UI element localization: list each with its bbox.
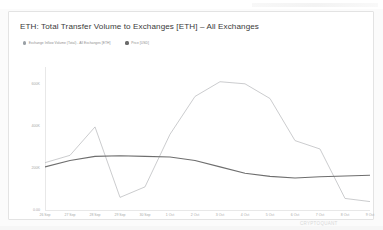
x-axis-tick-label: 4 Oct [241,213,249,217]
y-axis-labels: 600K400K200K0.00 [9,67,43,210]
x-axis-tick-label: 8 Oct [341,213,349,217]
page-bottom-edge [0,226,383,230]
legend-item-label: Exchange Inflow Volume (Total) - All Exc… [29,41,111,45]
x-axis-tick-label: 2 Oct [191,213,199,217]
plot-area [45,67,370,210]
y-axis-tick-label: 0.00 [33,208,40,212]
chart-card: ETH: Total Transfer Volume to Exchanges … [8,11,374,220]
legend-item-price[interactable]: Price [USD] [125,41,148,45]
series-line [45,82,370,202]
y-axis-tick-label: 200K [32,166,40,170]
x-axis-tick-label: 3 Oct [216,213,224,217]
x-axis-tick-label: 27 Sep [64,213,75,217]
x-axis-line [45,210,370,211]
page-title: ETH: Total Transfer Volume to Exchanges … [20,22,259,31]
series-line [45,156,370,178]
y-axis-tick-label: 600K [32,82,40,86]
chart-legend: Exchange Inflow Volume (Total) - All Exc… [23,41,149,45]
legend-dot-icon [125,41,128,44]
x-axis-tick-label: 7 Oct [316,213,324,217]
x-axis-tick-label: 5 Oct [266,213,274,217]
series-lines [45,67,370,210]
top-faint-bar [252,3,378,7]
x-axis-tick-label: 9 Oct [366,213,374,217]
screenshot-root: ETH: Total Transfer Volume to Exchanges … [0,0,383,230]
legend-item-label: Price [USD] [131,41,149,45]
legend-dot-icon [23,41,26,44]
x-axis-tick-label: 28 Sep [89,213,100,217]
x-axis-tick-label: 6 Oct [291,213,299,217]
x-axis-tick-label: 30 Sep [139,213,150,217]
x-axis-tick-label: 1 Oct [166,213,174,217]
y-axis-tick-label: 400K [32,124,40,128]
x-axis-tick-label: 26 Sep [39,213,50,217]
legend-item-volume[interactable]: Exchange Inflow Volume (Total) - All Exc… [23,41,110,45]
x-axis-tick-label: 29 Sep [114,213,125,217]
